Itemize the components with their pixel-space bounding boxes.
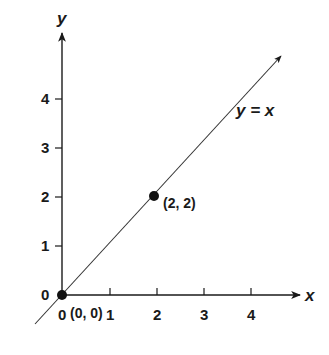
y-tick-label: 0 <box>41 286 49 303</box>
x-tick-label: 3 <box>200 306 208 323</box>
y-tick-label: 3 <box>41 139 49 156</box>
point-label-2-2: (2, 2) <box>163 195 196 211</box>
point-2-2 <box>149 191 159 201</box>
y-axis-label: y <box>56 9 68 28</box>
line-y-equals-x <box>35 56 281 324</box>
x-tick-label: 4 <box>247 306 256 323</box>
y-tick-label: 1 <box>41 237 49 254</box>
point-label-origin: (0, 0) <box>70 305 103 321</box>
point-origin <box>57 290 67 300</box>
x-origin-label: 0 <box>58 306 66 323</box>
y-tick-label: 4 <box>41 90 50 107</box>
x-tick-label: 2 <box>153 306 161 323</box>
y-tick-label: 2 <box>41 188 49 205</box>
line-label: y = x <box>235 101 276 120</box>
line-chart: y x 4 3 2 1 0 1 2 3 4 0 y = x (2, 2) (0,… <box>0 0 329 355</box>
y-ticks: 4 3 2 1 0 <box>41 90 62 303</box>
x-axis-label: x <box>304 286 316 305</box>
x-tick-label: 1 <box>106 306 114 323</box>
